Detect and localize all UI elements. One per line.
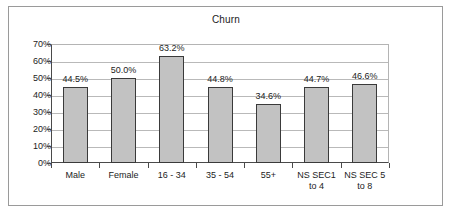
x-axis-category-line: NS SEC 5 [337,170,393,181]
y-axis-tick-mark [47,112,51,113]
bar [304,87,329,163]
x-axis-tick-mark [51,163,52,168]
y-axis-tick-mark [47,44,51,45]
x-axis-category-line: to 8 [337,181,393,192]
y-axis: 70%60%50%40%30%20%10%0% [11,44,51,163]
bar-value-label: 44.5% [46,74,104,84]
bar-value-label: 63.2% [143,43,201,53]
x-axis-tick-mark [292,163,293,168]
y-axis-tick-mark [47,78,51,79]
bar [208,87,233,163]
y-axis-tick-mark [47,129,51,130]
x-axis-category-label: NS SEC 5to 8 [337,170,393,192]
y-axis-tick-label: 70% [17,39,51,49]
y-axis-tick-label: 30% [17,107,51,117]
x-axis-tick-mark [389,163,390,168]
bar-value-label: 44.8% [191,74,249,84]
y-axis-tick-mark [47,163,51,164]
y-axis-tick-mark [47,61,51,62]
bar-value-label: 46.6% [336,71,394,81]
bar [352,84,377,163]
x-axis-tick-mark [341,163,342,168]
bar [63,87,88,163]
bar [111,78,136,163]
bar [256,104,281,163]
bar-value-label: 34.6% [239,91,297,101]
y-axis-tick-label: 0% [17,158,51,168]
x-axis-tick-mark [196,163,197,168]
y-axis-tick-mark [47,146,51,147]
y-axis-tick-label: 20% [17,124,51,134]
bar-series [51,44,389,163]
y-axis-tick-mark [47,95,51,96]
bar [159,56,184,163]
x-axis-tick-mark [148,163,149,168]
y-axis-tick-label: 40% [17,90,51,100]
x-axis-tick-mark [99,163,100,168]
bar-value-label: 50.0% [94,65,152,75]
x-axis-category-labels: MaleFemale16 - 3435 - 5455+NS SEC1to 4NS… [51,170,389,204]
chart-title: Churn [0,14,452,25]
y-axis-tick-label: 10% [17,141,51,151]
y-axis-tick-label: 60% [17,56,51,66]
x-axis-tick-mark [244,163,245,168]
chart-container: Churn 70%60%50%40%30%20%10%0% 44.5%50.0%… [0,0,452,216]
